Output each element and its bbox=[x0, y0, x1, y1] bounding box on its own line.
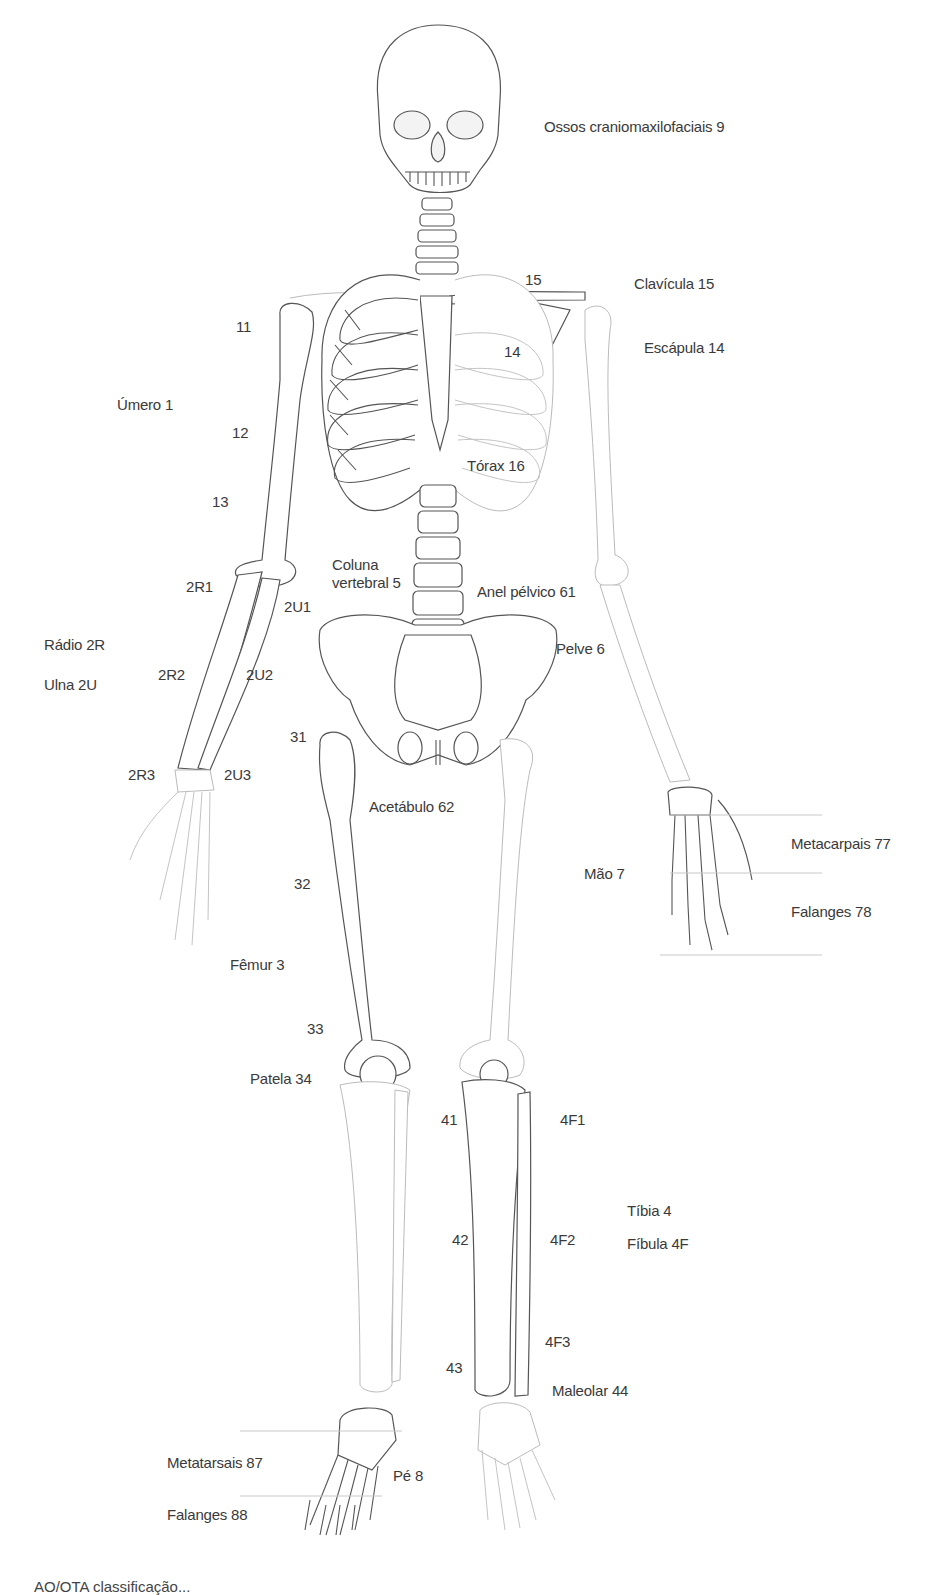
label-coluna: Coluna vertebral 5 bbox=[332, 556, 422, 592]
label-maleolar: Maleolar 44 bbox=[552, 1383, 628, 1398]
label-mao: Mão 7 bbox=[584, 866, 625, 881]
label-radius-2r1: 2R1 bbox=[186, 579, 213, 594]
label-torax: Tórax 16 bbox=[467, 458, 525, 473]
label-ulna: Ulna 2U bbox=[44, 677, 97, 692]
skull bbox=[377, 25, 500, 193]
label-patela: Patela 34 bbox=[250, 1071, 312, 1086]
label-escapula: Escápula 14 bbox=[644, 340, 724, 355]
label-ulna-2u2: 2U2 bbox=[246, 667, 273, 682]
label-clavicula: Clavícula 15 bbox=[634, 276, 714, 291]
label-fibula-4f2: 4F2 bbox=[550, 1232, 575, 1247]
label-tibia: Tíbia 4 bbox=[627, 1203, 671, 1218]
label-humerus-13: 13 bbox=[212, 494, 228, 509]
label-clavicula-num: 15 bbox=[525, 272, 541, 287]
label-humerus-11: 11 bbox=[236, 319, 251, 334]
label-femur-33: 33 bbox=[307, 1021, 323, 1036]
label-umero: Úmero 1 bbox=[117, 397, 173, 412]
label-cranio: Ossos craniomaxilofaciais 9 bbox=[544, 119, 725, 134]
label-femur-31: 31 bbox=[290, 729, 306, 744]
label-radio: Rádio 2R bbox=[44, 637, 105, 652]
left-foot bbox=[305, 1408, 396, 1535]
label-falanges-mao: Falanges 78 bbox=[791, 904, 871, 919]
label-anel-pelvico: Anel pélvico 61 bbox=[477, 584, 576, 599]
label-metatarsais: Metatarsais 87 bbox=[167, 1455, 263, 1470]
label-fibula-4f1: 4F1 bbox=[560, 1112, 585, 1127]
label-ulna-2u1: 2U1 bbox=[284, 599, 311, 614]
label-tibia-43: 43 bbox=[446, 1360, 462, 1375]
label-humerus-12: 12 bbox=[232, 425, 248, 440]
label-fibula-4f3: 4F3 bbox=[545, 1334, 570, 1349]
label-pelve: Pelve 6 bbox=[556, 641, 605, 656]
right-foot bbox=[478, 1403, 555, 1530]
label-femur: Fêmur 3 bbox=[230, 957, 284, 972]
right-hand bbox=[668, 787, 752, 950]
label-radius-2r3: 2R3 bbox=[128, 767, 155, 782]
label-escapula-num: 14 bbox=[504, 344, 520, 359]
figure-caption: AO/OTA classificação... bbox=[34, 1578, 190, 1595]
label-fibula: Fíbula 4F bbox=[627, 1236, 689, 1251]
label-acetabulo: Acetábulo 62 bbox=[369, 799, 454, 814]
cervical-spine bbox=[416, 198, 458, 274]
label-radius-2r2: 2R2 bbox=[158, 667, 185, 682]
label-falanges-pe: Falanges 88 bbox=[167, 1507, 247, 1522]
label-metacarpais: Metacarpais 77 bbox=[791, 836, 891, 851]
label-femur-32: 32 bbox=[294, 876, 310, 891]
label-tibia-41: 41 bbox=[441, 1112, 457, 1127]
label-pe: Pé 8 bbox=[393, 1468, 423, 1483]
left-hand bbox=[130, 770, 214, 945]
label-ulna-2u3: 2U3 bbox=[224, 767, 251, 782]
label-tibia-42: 42 bbox=[452, 1232, 468, 1247]
